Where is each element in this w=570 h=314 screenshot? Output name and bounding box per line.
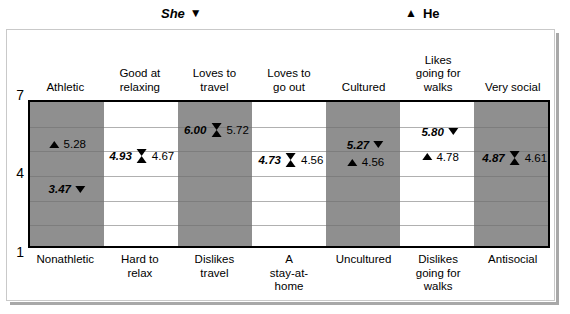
label-line: A [252,253,327,267]
label-line: going for [401,267,476,281]
label-line: Loves to [177,67,252,81]
chart-plot-area: 3.475.284.934.676.005.724.734.565.274.56… [28,100,550,248]
label-line: Very social [475,81,550,95]
legend-label-he: He [423,6,440,21]
frame-shadow-right [556,33,559,303]
label-line: home [252,280,327,294]
label-line: relaxing [103,81,178,95]
label-line: walks [401,81,476,95]
label-line: Cultured [326,81,401,95]
legend-label-she: She [161,6,185,21]
column-band [326,102,400,246]
label-line: Loves to [252,67,327,81]
bottom-pole-label: Nonathletic [28,253,103,267]
label-line: walks [401,280,476,294]
top-pole-label: Cultured [326,81,401,95]
legend-item-she: She▼ [161,4,202,23]
axis-label-top: 7 [4,88,24,102]
axis-label-bottom: 1 [4,245,24,259]
legend-item-he: ▲He [405,4,440,23]
bottom-pole-label: Dislikesgoing forwalks [401,253,476,294]
label-line: Good at [103,67,178,81]
label-line: Likes [401,54,476,68]
label-line: stay-at- [252,267,327,281]
bottom-pole-label: Antisocial [475,253,550,267]
bottom-pole-label: Hard torelax [103,253,178,280]
top-pole-label: Very social [475,81,550,95]
bottom-pole-label: Uncultured [326,253,401,267]
label-line: Athletic [28,81,103,95]
column-band [178,102,252,246]
chart-legend: She▼ ▲He [0,0,570,30]
label-line: going for [401,67,476,81]
bottom-pole-label: Astay-at-home [252,253,327,294]
top-pole-label: Good atrelaxing [103,67,178,94]
label-line: Dislikes [401,253,476,267]
label-line: go out [252,81,327,95]
column-band [252,102,326,246]
bottom-pole-label: Dislikestravel [177,253,252,280]
label-line: Uncultured [326,253,401,267]
label-line: relax [103,267,178,281]
label-line: Antisocial [475,253,550,267]
column-band [400,102,474,246]
top-pole-label: Likesgoing forwalks [401,54,476,95]
label-line: Dislikes [177,253,252,267]
column-band [30,102,104,246]
triangle-down-icon: ▼ [190,6,202,20]
label-line: Nonathletic [28,253,103,267]
column-band [104,102,178,246]
label-line: travel [177,267,252,281]
top-pole-label: Athletic [28,81,103,95]
column-band [474,102,548,246]
column-bands [30,102,548,246]
triangle-up-icon: ▲ [405,6,417,20]
label-line: Hard to [103,253,178,267]
top-pole-label: Loves totravel [177,67,252,94]
frame-shadow-bottom [10,302,559,305]
label-line: travel [177,81,252,95]
axis-label-mid: 4 [4,166,24,180]
top-pole-label: Loves togo out [252,67,327,94]
